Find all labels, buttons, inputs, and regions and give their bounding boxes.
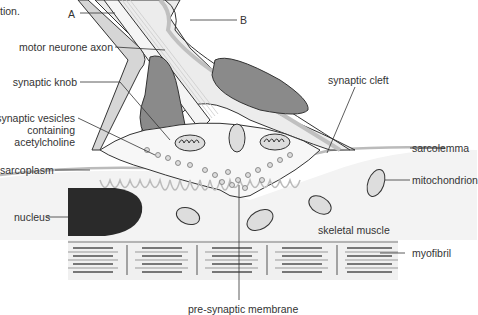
mitochondrion-knob-3 — [260, 134, 290, 150]
label-motor-neurone-axon: motor neurone axon — [19, 41, 113, 53]
label-synaptic-vesicles-1: synaptic vesicles — [0, 112, 75, 124]
label-myofibril: myofibril — [412, 247, 451, 259]
myofibril — [68, 240, 398, 280]
label-synaptic-knob: synaptic knob — [13, 76, 77, 88]
mitochondrion-knob-1 — [175, 135, 205, 151]
mitochondrion-knob-2 — [229, 124, 245, 152]
label-a: A — [68, 8, 75, 20]
label-mitochondrion: mitochondrion — [412, 174, 478, 186]
label-synaptic-vesicles-2: containing — [27, 124, 75, 136]
label-pre-synaptic-membrane: pre-synaptic membrane — [188, 303, 298, 315]
label-synaptic-vesicles-3: acetylcholine — [14, 136, 75, 148]
label-sarcolemma: sarcolemma — [412, 142, 469, 154]
label-nucleus: nucleus — [14, 211, 50, 223]
label-b: B — [240, 14, 247, 26]
label-sarcoplasm: sarcoplasm — [0, 164, 54, 176]
caption-fragment: tion. — [0, 5, 20, 17]
label-skeletal-muscle: skeletal muscle — [318, 224, 390, 236]
label-synaptic-cleft: synaptic cleft — [328, 74, 389, 86]
